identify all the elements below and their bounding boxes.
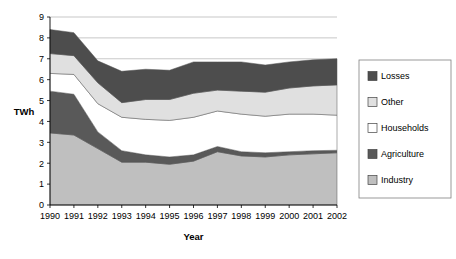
y-tick-label: 4 <box>39 117 44 127</box>
x-tick-label: 1995 <box>160 211 180 221</box>
y-tick-label: 6 <box>39 75 44 85</box>
legend-label-industry: Industry <box>381 175 414 185</box>
legend-label-agriculture: Agriculture <box>381 149 424 159</box>
x-tick-label: 1994 <box>136 211 156 221</box>
x-tick-label: 2000 <box>279 211 299 221</box>
y-tick-label: 8 <box>39 33 44 43</box>
y-tick-label: 5 <box>39 96 44 106</box>
y-tick-label: 1 <box>39 179 44 189</box>
chart-figure: 0123456789199019911992199319941995199619… <box>0 0 456 259</box>
y-tick-label: 9 <box>39 12 44 22</box>
y-axis-title: TWh <box>14 106 35 117</box>
x-tick-label: 1996 <box>183 211 203 221</box>
x-tick-label: 2002 <box>327 211 347 221</box>
y-tick-label: 2 <box>39 159 44 169</box>
x-axis-title: Year <box>183 231 203 242</box>
legend-label-losses: Losses <box>381 71 410 81</box>
legend-swatch-other <box>368 98 377 107</box>
legend-swatch-losses <box>368 72 377 81</box>
x-tick-label: 1999 <box>255 211 275 221</box>
x-tick-label: 1992 <box>88 211 108 221</box>
x-tick-label: 1990 <box>40 211 60 221</box>
x-tick-label: 2001 <box>303 211 323 221</box>
x-tick-label: 1993 <box>112 211 132 221</box>
x-tick-label: 1998 <box>231 211 251 221</box>
legend-label-other: Other <box>381 97 404 107</box>
y-tick-label: 3 <box>39 138 44 148</box>
legend-label-households: Households <box>381 123 429 133</box>
stacked-area-chart: 0123456789199019911992199319941995199619… <box>0 0 456 259</box>
y-tick-label: 7 <box>39 54 44 64</box>
plot-area-container: 0123456789199019911992199319941995199619… <box>0 0 456 259</box>
x-tick-label: 1997 <box>207 211 227 221</box>
legend-swatch-industry <box>368 176 377 185</box>
y-tick-label: 0 <box>39 200 44 210</box>
x-tick-label: 1991 <box>64 211 84 221</box>
legend-swatch-agriculture <box>368 150 377 159</box>
legend-swatch-households <box>368 124 377 133</box>
